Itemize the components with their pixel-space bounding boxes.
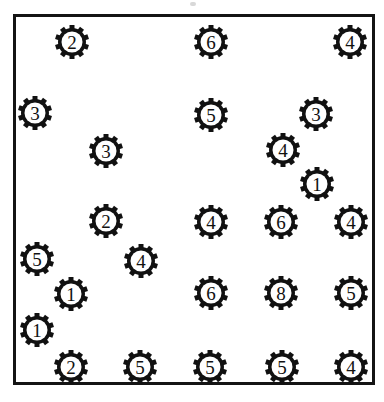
gear-icon: 4 — [124, 244, 158, 278]
gear-value-label: 8 — [276, 283, 286, 304]
gear-value-label: 1 — [32, 320, 42, 341]
gear-value-label: 5 — [32, 249, 42, 270]
gear-icon: 5 — [265, 350, 299, 384]
gear-value-label: 3 — [101, 141, 111, 162]
gear-icon: 5 — [193, 350, 227, 384]
gear-value-label: 3 — [311, 104, 321, 125]
gear-icon: 4 — [266, 133, 300, 167]
gear-icon: 4 — [334, 205, 368, 239]
gear-value-label: 3 — [30, 103, 40, 124]
gear-value-label: 1 — [66, 284, 76, 305]
gear-value-label: 5 — [135, 357, 145, 378]
gear-value-label: 4 — [206, 212, 216, 233]
gear-value-label: 6 — [276, 212, 286, 233]
gear-value-label: 2 — [101, 211, 111, 232]
gear-icon: 5 — [20, 242, 54, 276]
gear-value-label: 4 — [136, 251, 146, 272]
gear-value-label: 4 — [278, 140, 288, 161]
gear-icon: 2 — [89, 204, 123, 238]
gear-icon: 4 — [194, 205, 228, 239]
gear-value-label: 2 — [67, 32, 77, 53]
gear-icon: 1 — [20, 313, 54, 347]
gear-value-label: 5 — [346, 283, 356, 304]
gear-value-label: 6 — [206, 32, 216, 53]
gear-icon: 6 — [264, 205, 298, 239]
gear-value-label: 1 — [312, 174, 322, 195]
gear-value-label: 5 — [205, 357, 215, 378]
gear-icon: 5 — [123, 350, 157, 384]
gear-icon: 5 — [334, 276, 368, 310]
gear-icon: 6 — [194, 276, 228, 310]
gear-value-label: 4 — [346, 212, 356, 233]
gear-icon: 3 — [18, 96, 52, 130]
gear-value-label: 6 — [206, 283, 216, 304]
gear-value-label: 4 — [346, 357, 356, 378]
gear-icon: 8 — [264, 276, 298, 310]
gear-icon: 4 — [334, 350, 368, 384]
figure-canvas: 2643533412464541685125554 — [0, 0, 384, 402]
gear-icon: 3 — [89, 134, 123, 168]
page-artifact-speck — [190, 2, 196, 6]
gear-icon: 1 — [300, 167, 334, 201]
gear-icon: 3 — [299, 97, 333, 131]
gear-value-label: 5 — [206, 105, 216, 126]
gear-icon: 6 — [194, 25, 228, 59]
gear-value-label: 5 — [277, 357, 287, 378]
gear-icon: 2 — [54, 350, 88, 384]
gear-icon: 4 — [333, 25, 367, 59]
gear-value-label: 2 — [66, 357, 76, 378]
gear-icon: 1 — [54, 277, 88, 311]
gear-value-label: 4 — [345, 32, 355, 53]
gear-icon: 2 — [55, 25, 89, 59]
gear-icon: 5 — [194, 98, 228, 132]
